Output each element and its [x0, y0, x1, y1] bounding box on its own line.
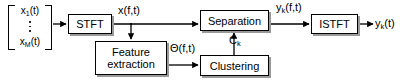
- junction-dot-x-ft: [130, 23, 132, 25]
- signal-label-theta-ft-base: Θ(f,t): [170, 42, 195, 54]
- block-feature-extraction: Feature extraction: [95, 41, 167, 75]
- vector-bracket-right: [45, 5, 52, 50]
- signal-label-yk-ft-tail: (f,t): [285, 1, 302, 13]
- block-clustering-label: Clustering: [207, 60, 263, 72]
- vector-bracket-left: [8, 5, 15, 50]
- vector-entry-first-arg: (t): [30, 5, 39, 16]
- vector-entry-last-subscript: M: [25, 41, 31, 48]
- block-feature-extraction-label: Feature extraction: [104, 46, 158, 70]
- signal-label-yk-t-base: y: [375, 17, 381, 29]
- block-stft-label: STFT: [73, 18, 107, 30]
- input-signal-vector: x1(t) xM(t): [8, 5, 52, 48]
- signal-label-yk-ft-subscript: k: [282, 6, 286, 15]
- block-diagram: x1(t) xM(t) STFT Feature extraction Sepa…: [0, 0, 406, 82]
- vector-entry-first-subscript: 1: [26, 10, 30, 17]
- signal-label-yk-t: yk(t): [375, 17, 395, 31]
- vector-entry-first: x1(t): [21, 5, 39, 17]
- vector-ellipsis-icon: [29, 20, 31, 33]
- vector-entry-last-arg: (t): [31, 36, 40, 47]
- signal-label-ck: Ck: [229, 34, 241, 48]
- block-separation: Separation: [200, 10, 269, 31]
- signal-label-theta-ft: Θ(f,t): [170, 42, 195, 54]
- signal-label-yk-t-subscript: k: [381, 22, 385, 31]
- signal-label-yk-ft-base: y: [276, 1, 282, 13]
- block-separation-label: Separation: [205, 15, 264, 27]
- block-stft: STFT: [68, 14, 112, 34]
- signal-label-yk-t-tail: (t): [384, 17, 394, 29]
- vector-entry-last: xM(t): [20, 36, 40, 48]
- block-istft: ISTFT: [311, 14, 358, 34]
- signal-label-x-ft: x(f,t): [118, 4, 140, 16]
- signal-label-x-ft-base: x(f,t): [118, 4, 140, 16]
- signal-label-yk-ft: yk(f,t): [276, 1, 302, 15]
- block-clustering: Clustering: [200, 55, 269, 76]
- block-istft-label: ISTFT: [316, 18, 353, 30]
- signal-label-ck-base: C: [229, 34, 237, 46]
- signal-label-ck-subscript: k: [237, 39, 241, 48]
